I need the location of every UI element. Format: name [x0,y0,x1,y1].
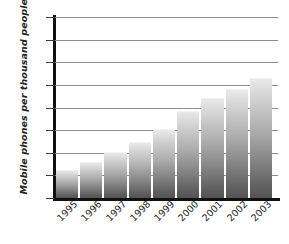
y-axis-tick [46,85,55,86]
y-axis-tick [46,108,55,109]
bar [129,142,151,198]
bar [104,152,126,198]
y-axis-tick [46,17,55,18]
bar [80,162,102,198]
bar [250,78,272,198]
x-axis-tick-labels: 199519961997199819992000200120022003 [56,201,272,243]
bar-chart: Mobile phones per thousand people 010020… [0,0,289,244]
bar [201,98,223,198]
bar-series [56,17,272,198]
y-axis-tick [46,198,55,199]
bar [153,129,175,198]
y-axis-tick [46,175,55,176]
y-axis-tick [46,62,55,63]
bar [177,111,199,198]
y-axis-tick [46,40,55,41]
y-axis-tick [46,130,55,131]
x-axis-tick-label-cell: 2003 [250,201,272,243]
bar [226,89,248,198]
y-axis-title: Mobile phones per thousand people [18,25,29,195]
plot-area: 0100200300400500600700800 [56,17,272,198]
y-axis-tick [46,153,55,154]
